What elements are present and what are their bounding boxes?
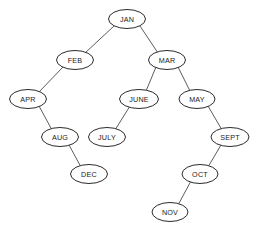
node-label-jan: JAN [120,15,134,24]
node-label-may: MAY [189,95,205,104]
tree-node-apr[interactable]: APR [10,90,47,109]
node-label-sept: SEPT [220,133,240,142]
tree-node-mar[interactable]: MAR [149,51,186,70]
tree-edge-mar-may [178,67,190,91]
tree-diagram-svg: JANFEBMARAPRJUNEMAYAUGJULYSEPTDECOCTNOV [0,0,259,232]
tree-node-oct[interactable]: OCT [182,165,218,184]
node-label-feb: FEB [68,56,83,65]
node-label-june: JUNE [129,95,149,104]
tree-node-dec[interactable]: DEC [71,165,108,184]
tree-node-june[interactable]: JUNE [120,90,159,109]
tree-node-nov[interactable]: NOV [152,203,188,222]
node-label-apr: APR [20,95,35,104]
tree-node-jan[interactable]: JAN [109,10,146,29]
tree-node-july[interactable]: JULY [89,128,126,147]
tree-node-aug[interactable]: AUG [42,128,79,147]
node-label-oct: OCT [192,170,208,179]
tree-edge-june-july [115,106,130,130]
node-label-dec: DEC [81,170,97,179]
tree-edge-apr-aug [39,106,52,130]
node-label-july: JULY [98,133,116,142]
tree-edge-jan-mar [140,26,158,53]
tree-node-may[interactable]: MAY [179,90,215,109]
node-label-mar: MAR [159,56,176,65]
tree-edge-feb-apr [39,67,63,92]
tree-edge-jan-feb [85,26,114,53]
tree-edge-sept-oct [208,145,221,167]
node-label-nov: NOV [162,208,178,217]
tree-edge-oct-nov [178,181,191,205]
tree-node-feb[interactable]: FEB [57,51,94,70]
tree-node-sept[interactable]: SEPT [211,128,249,147]
tree-diagram-canvas: JANFEBMARAPRJUNEMAYAUGJULYSEPTDECOCTNOV [0,0,259,232]
tree-edge-aug-dec [69,145,81,167]
node-label-aug: AUG [52,133,68,142]
tree-edge-mar-june [146,67,156,91]
tree-edge-may-sept [208,106,222,130]
